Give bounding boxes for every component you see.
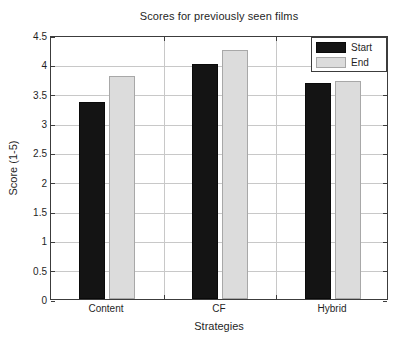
y-axis-tick — [383, 242, 387, 243]
bar-cf-end — [222, 50, 248, 299]
bar-hybrid-end — [335, 81, 361, 299]
legend-item-start: Start — [312, 40, 386, 55]
plot-area — [50, 36, 388, 300]
y-axis-tick-label: 1 — [3, 236, 47, 247]
y-axis-tick — [383, 154, 387, 155]
chart-title: Scores for previously seen films — [50, 10, 388, 22]
y-axis-tick — [383, 213, 387, 214]
bar-cf-start — [192, 64, 218, 299]
bar-content-start — [79, 102, 105, 299]
gridline-vertical — [276, 37, 277, 299]
y-axis-tick — [383, 125, 387, 126]
x-axis-tick — [164, 37, 165, 41]
x-axis-tick — [276, 37, 277, 41]
x-axis-tick — [276, 295, 277, 299]
y-axis-tick — [383, 271, 387, 272]
x-axis-tick — [164, 295, 165, 299]
y-axis-tick — [383, 301, 387, 302]
legend-swatch-end — [316, 57, 346, 68]
y-axis-tick — [51, 95, 55, 96]
y-axis-tick-label: 3.5 — [3, 89, 47, 100]
figure-canvas: Scores for previously seen films 00.511.… — [0, 0, 403, 346]
y-axis-tick — [383, 183, 387, 184]
legend-swatch-start — [316, 42, 346, 53]
bar-hybrid-start — [305, 83, 331, 299]
y-axis-tick — [51, 154, 55, 155]
x-axis-tick-labels: ContentCFHybrid — [50, 303, 388, 319]
y-axis-tick-label: 4.5 — [3, 31, 47, 42]
y-axis-tick — [51, 301, 55, 302]
x-axis-title: Strategies — [50, 320, 388, 332]
y-axis-tick — [51, 125, 55, 126]
legend-label-end: End — [351, 57, 369, 68]
legend-item-end: End — [312, 55, 386, 70]
gridline-vertical — [164, 37, 165, 299]
y-axis-title: Score (1-5) — [7, 108, 19, 228]
x-axis-tick-label: Content — [88, 303, 123, 314]
legend-label-start: Start — [351, 42, 372, 53]
y-axis-tick-label: 4 — [3, 60, 47, 71]
y-axis-tick — [51, 66, 55, 67]
y-axis-tick — [51, 183, 55, 184]
y-axis-tick — [51, 271, 55, 272]
y-axis-tick — [51, 242, 55, 243]
bar-content-end — [109, 76, 135, 299]
y-axis-tick — [383, 95, 387, 96]
y-axis-tick — [51, 37, 55, 38]
x-axis-tick-label: CF — [212, 303, 225, 314]
legend: Start End — [311, 37, 387, 72]
y-axis-tick-label: 0 — [3, 295, 47, 306]
y-axis-tick — [51, 213, 55, 214]
x-axis-tick-label: Hybrid — [318, 303, 347, 314]
y-axis-tick-label: 0.5 — [3, 265, 47, 276]
